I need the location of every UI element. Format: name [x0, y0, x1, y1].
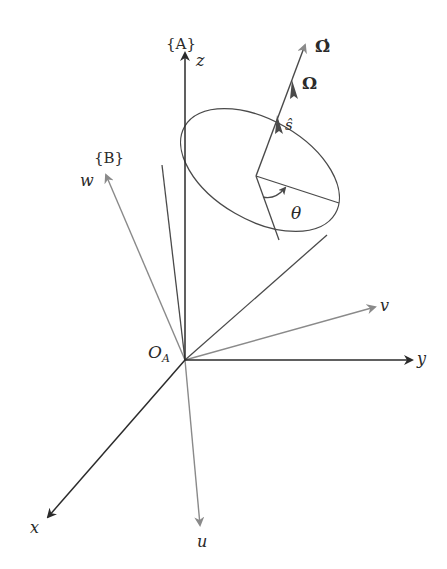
- omega-label: Ω: [302, 75, 317, 92]
- cone-left-edge: [162, 165, 185, 360]
- u-axis-label: u: [197, 534, 207, 550]
- z-axis-label: z: [196, 53, 204, 69]
- origin-letter: O: [148, 342, 162, 362]
- cone-right-edge: [185, 235, 327, 360]
- cone-base-ellipse: [160, 83, 361, 257]
- v-axis-label: v: [380, 298, 389, 314]
- diagram-svg: [0, 0, 447, 569]
- cone-radius-2: [256, 176, 279, 240]
- omega-dot-label: Ω̇: [315, 38, 330, 55]
- w-axis-label: w: [80, 173, 94, 189]
- frame-a-label: {A}: [166, 37, 196, 52]
- y-axis-label: y: [417, 351, 426, 367]
- frame-b-label: {B}: [94, 151, 124, 166]
- cone-radius-1: [256, 176, 339, 203]
- origin-subscript: A: [162, 352, 170, 365]
- frame-b-axes: [106, 175, 375, 525]
- s-hat-vector: [256, 45, 305, 176]
- s-hat-label: ŝ: [285, 118, 293, 133]
- theta-label: θ: [291, 205, 301, 222]
- frame-a-axes: [48, 53, 412, 517]
- w-axis: [106, 175, 185, 360]
- x-axis: [48, 360, 185, 517]
- spin-axis: [256, 45, 305, 176]
- origin-label: OA: [148, 344, 170, 364]
- diagram-canvas: {A} z y x OA {B} w v u Ω̇ Ω ŝ θ: [0, 0, 447, 569]
- cone: [160, 83, 361, 360]
- u-axis: [185, 360, 200, 525]
- x-axis-label: x: [30, 520, 39, 536]
- v-axis: [185, 307, 375, 360]
- theta-arc: [263, 188, 285, 198]
